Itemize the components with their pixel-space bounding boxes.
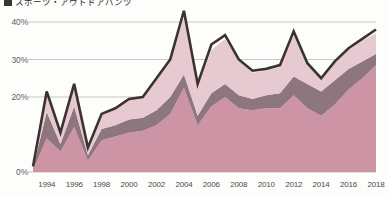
x-tick-label: 2016 xyxy=(334,180,364,189)
y-tick-label: 40% xyxy=(2,17,28,27)
chart-root: スポーツ・アウトドアパンツ 40%30%20%0% 19941996199820… xyxy=(0,0,387,197)
x-tick-label: 2002 xyxy=(141,180,171,189)
x-tick-label: 2014 xyxy=(306,180,336,189)
x-tick-label: 2012 xyxy=(279,180,309,189)
x-tick-label: 2004 xyxy=(169,180,199,189)
y-tick-label: 20% xyxy=(2,92,28,102)
x-tick-label: 2010 xyxy=(251,180,281,189)
plot-area xyxy=(0,0,387,197)
x-tick-label: 1994 xyxy=(32,180,62,189)
x-tick-label: 2000 xyxy=(114,180,144,189)
x-tick-label: 1996 xyxy=(59,180,89,189)
x-tick-label: 2018 xyxy=(361,180,387,189)
x-tick-label: 1998 xyxy=(87,180,117,189)
y-tick-label: 0% xyxy=(2,167,28,177)
x-tick-label: 2008 xyxy=(224,180,254,189)
area-chart xyxy=(0,0,387,197)
y-tick-label: 30% xyxy=(2,55,28,65)
x-tick-label: 2006 xyxy=(196,180,226,189)
